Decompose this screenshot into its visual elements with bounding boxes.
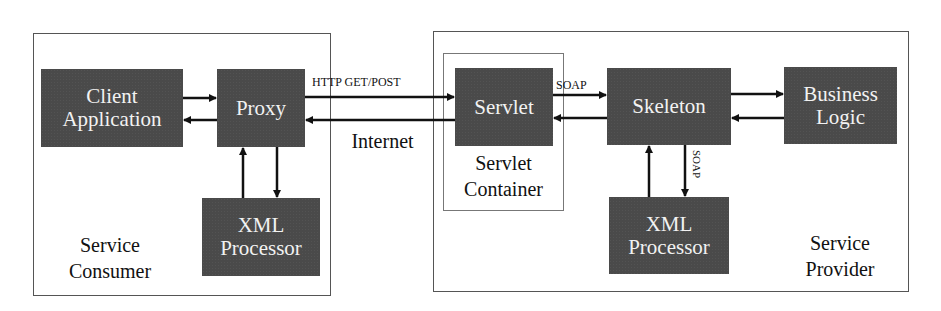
service-consumer-line2: Consumer xyxy=(50,258,170,284)
skeleton-label: Skeleton xyxy=(632,95,706,118)
client-application-line2: Application xyxy=(62,108,161,131)
servlet-container-line1: Servlet xyxy=(445,150,562,176)
http-protocol-label: HTTP GET/POST xyxy=(312,75,401,89)
provider-xml-line1: XML xyxy=(646,213,693,236)
provider-xml-processor-node: XML Processor xyxy=(609,197,729,274)
servlet-label: Servlet xyxy=(474,96,533,119)
service-consumer-line1: Service xyxy=(50,232,170,258)
service-provider-label: Service Provider xyxy=(785,230,895,282)
servlet-node: Servlet xyxy=(455,68,553,146)
proxy-label: Proxy xyxy=(236,97,286,120)
client-application-node: Client Application xyxy=(41,69,183,147)
business-logic-node: Business Logic xyxy=(784,67,897,144)
consumer-xml-line2: Processor xyxy=(220,237,302,260)
provider-xml-line2: Processor xyxy=(628,236,710,259)
service-provider-line1: Service xyxy=(785,230,895,256)
consumer-xml-processor-node: XML Processor xyxy=(202,198,320,276)
consumer-xml-line1: XML xyxy=(238,214,285,237)
soap-vertical-label: SOAP xyxy=(691,150,703,178)
servlet-container-line2: Container xyxy=(445,176,562,202)
servlet-container-label: Servlet Container xyxy=(445,150,562,202)
proxy-node: Proxy xyxy=(217,69,305,147)
business-logic-line2: Logic xyxy=(816,106,865,129)
business-logic-line1: Business xyxy=(803,83,878,106)
soap-horizontal-label: SOAP xyxy=(556,78,587,92)
service-provider-line2: Provider xyxy=(785,256,895,282)
skeleton-node: Skeleton xyxy=(607,68,731,145)
client-application-line1: Client xyxy=(86,85,137,108)
service-consumer-label: Service Consumer xyxy=(50,232,170,284)
internet-label: Internet xyxy=(335,128,430,154)
